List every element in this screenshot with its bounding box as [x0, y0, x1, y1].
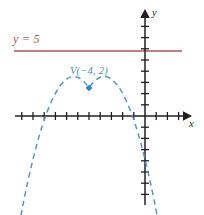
- y-axis-arrow-icon: [140, 9, 150, 18]
- graph-figure: y = 5 V(−4, 2) y x: [0, 0, 204, 215]
- vertex-diamond-icon[interactable]: [85, 85, 92, 91]
- line-equation-label: y = 5: [13, 33, 40, 45]
- vertex-marker[interactable]: [85, 85, 92, 91]
- y-axis-label: y: [152, 8, 157, 19]
- x-axis: [15, 111, 192, 121]
- x-axis-label: x: [189, 119, 194, 130]
- vertex-coordinate-label: V(−4, 2): [70, 66, 108, 77]
